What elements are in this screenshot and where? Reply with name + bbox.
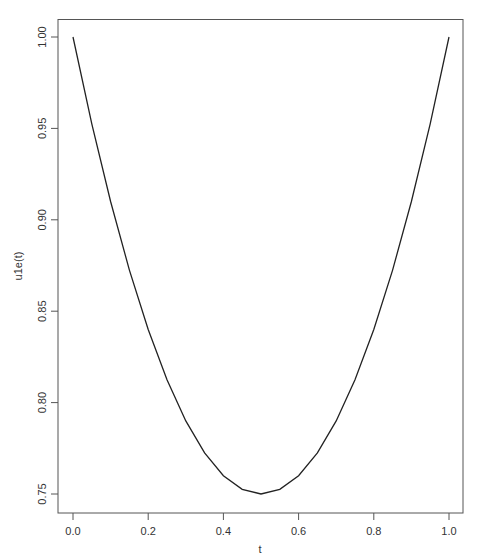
x-tick-label: 1.0 <box>441 525 456 537</box>
y-tick-label: 1.00 <box>36 26 48 47</box>
x-tick-label: 0.6 <box>291 525 306 537</box>
data-line <box>73 37 449 494</box>
y-axis-label: u1e(t) <box>12 252 24 281</box>
chart: 0.00.20.40.60.81.0 0.750.800.850.900.951… <box>0 0 477 559</box>
plot-box <box>58 20 463 514</box>
x-tick-label: 0.4 <box>216 525 231 537</box>
x-axis: 0.00.20.40.60.81.0 <box>65 513 456 537</box>
x-tick-label: 0.0 <box>65 525 80 537</box>
x-tick-label: 0.8 <box>366 525 381 537</box>
y-tick-label: 0.95 <box>36 118 48 139</box>
y-tick-label: 0.75 <box>36 483 48 504</box>
y-tick-label: 0.90 <box>36 209 48 230</box>
x-axis-label: t <box>258 543 261 555</box>
y-axis: 0.750.800.850.900.951.00 <box>36 26 58 504</box>
y-tick-label: 0.80 <box>36 392 48 413</box>
y-tick-label: 0.85 <box>36 300 48 321</box>
x-tick-label: 0.2 <box>141 525 156 537</box>
